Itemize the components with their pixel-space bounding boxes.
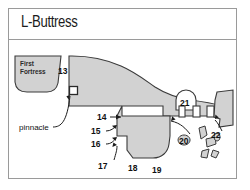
leader-17 xyxy=(114,146,117,160)
route-label-16: 16 xyxy=(91,139,101,149)
page-title: L-Buttress xyxy=(21,13,78,31)
notch-c xyxy=(207,106,214,117)
title-bar: L-Buttress xyxy=(9,9,236,40)
route-label-15: 15 xyxy=(91,126,101,136)
route-label-22: 22 xyxy=(211,130,221,140)
leader-pinnacle xyxy=(53,96,70,127)
route-label-21: 21 xyxy=(180,98,190,108)
label-first-fortress-line2: Fortress xyxy=(20,68,46,75)
boulder-6 xyxy=(211,150,219,158)
route-label-17: 17 xyxy=(98,161,108,171)
topo-page: L-Buttress xyxy=(0,0,250,190)
boulder-5 xyxy=(201,149,209,158)
label-first-fortress-line1: First xyxy=(20,60,35,67)
notch-b xyxy=(193,106,200,117)
label-pinnacle: pinnacle xyxy=(19,123,49,132)
route-label-13: 13 xyxy=(58,66,68,76)
rock-lower-buttress xyxy=(117,106,170,158)
route-label-20: 20 xyxy=(179,136,189,146)
leader-20 xyxy=(171,121,190,134)
arrowhead-20 xyxy=(171,116,176,121)
route-label-18: 18 xyxy=(128,163,138,173)
arrowhead-17 xyxy=(112,142,117,147)
route-label-19: 19 xyxy=(152,165,162,175)
map-frame: L-Buttress xyxy=(8,8,237,179)
map-canvas: First Fortress pinnacle 13 14 15 16 17 1… xyxy=(9,40,236,178)
pinnacle-marker xyxy=(70,87,78,95)
route-label-14: 14 xyxy=(97,112,107,122)
boulder-1 xyxy=(199,126,207,139)
